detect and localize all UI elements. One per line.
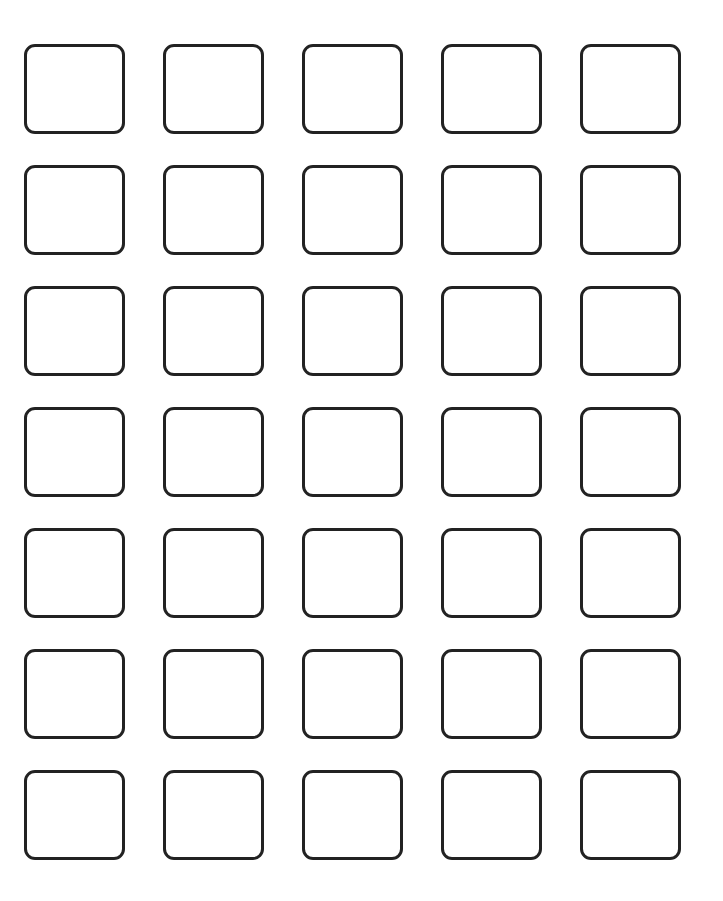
cut-off-heading: [0, 0, 723, 6]
empty-box-r2-c4: [441, 165, 542, 255]
box-grid: [24, 44, 680, 860]
empty-box-r6-c3: [302, 649, 403, 739]
empty-box-r7-c1: [24, 770, 125, 860]
empty-box-r5-c1: [24, 528, 125, 618]
empty-box-r6-c2: [163, 649, 264, 739]
empty-box-r3-c3: [302, 286, 403, 376]
empty-box-r3-c1: [24, 286, 125, 376]
empty-box-r1-c5: [580, 44, 681, 134]
empty-box-r6-c1: [24, 649, 125, 739]
empty-box-r2-c1: [24, 165, 125, 255]
empty-box-r2-c3: [302, 165, 403, 255]
empty-box-r5-c3: [302, 528, 403, 618]
empty-box-r3-c4: [441, 286, 542, 376]
empty-box-r1-c1: [24, 44, 125, 134]
empty-box-r4-c3: [302, 407, 403, 497]
empty-box-r4-c5: [580, 407, 681, 497]
empty-box-r7-c3: [302, 770, 403, 860]
empty-box-r7-c5: [580, 770, 681, 860]
empty-box-r1-c2: [163, 44, 264, 134]
empty-box-r1-c4: [441, 44, 542, 134]
empty-box-r2-c5: [580, 165, 681, 255]
empty-box-r5-c2: [163, 528, 264, 618]
empty-box-r5-c4: [441, 528, 542, 618]
empty-box-r1-c3: [302, 44, 403, 134]
empty-box-r6-c5: [580, 649, 681, 739]
empty-box-r5-c5: [580, 528, 681, 618]
empty-box-r3-c5: [580, 286, 681, 376]
empty-box-r4-c4: [441, 407, 542, 497]
empty-box-r3-c2: [163, 286, 264, 376]
empty-box-r4-c1: [24, 407, 125, 497]
empty-box-r4-c2: [163, 407, 264, 497]
empty-box-r7-c4: [441, 770, 542, 860]
empty-box-r2-c2: [163, 165, 264, 255]
empty-box-r7-c2: [163, 770, 264, 860]
empty-box-r6-c4: [441, 649, 542, 739]
